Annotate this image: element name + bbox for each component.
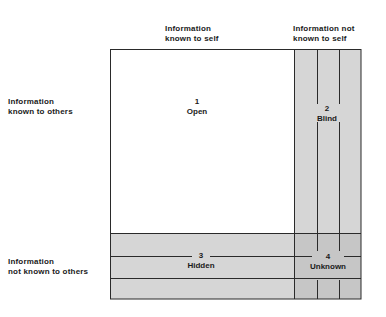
quadrant-open-label: 1 Open (167, 97, 227, 117)
quadrant-blind-label: 2 Blind (302, 104, 352, 124)
quadrant-hidden-label: 3 Hidden (171, 251, 231, 271)
quadrant-open-fill (110, 49, 294, 233)
column-header-not-known-to-self: Information not known to self (293, 24, 355, 44)
quadrant-blind-fill (294, 49, 361, 233)
row-header-not-known-to-others: Information not known to others (8, 257, 88, 277)
quadrant-unknown-label: 4 Unknown (298, 252, 358, 272)
column-header-known-to-self: Information known to self (165, 24, 219, 44)
row-header-known-to-others: Information known to others (8, 97, 73, 117)
